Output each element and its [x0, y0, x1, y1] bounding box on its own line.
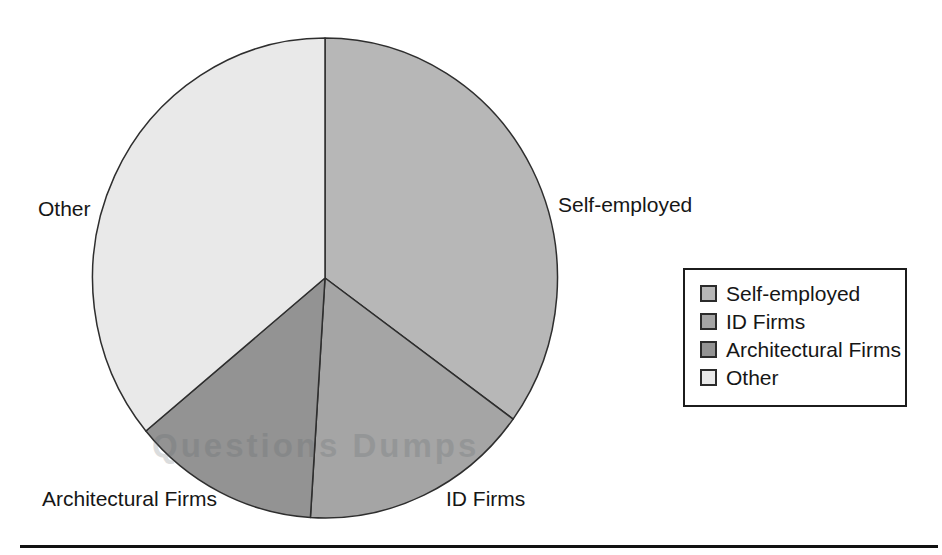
legend-swatch-self-employed [700, 285, 717, 302]
legend-item: Self-employed [700, 283, 897, 304]
legend-swatch-architectural-firms [700, 341, 717, 358]
slice-label-self-employed: Self-employed [558, 193, 692, 217]
slice-label-other: Other [38, 197, 91, 221]
legend-item: ID Firms [700, 311, 897, 332]
legend-label: Other [726, 367, 779, 388]
legend: Self-employed ID Firms Architectural Fir… [683, 268, 907, 407]
legend-item: Architectural Firms [700, 339, 897, 360]
slice-label-architectural-firms: Architectural Firms [42, 487, 217, 511]
pie-chart-figure: Questions Dumps Self-employed ID Firms A… [0, 0, 942, 555]
legend-label: Architectural Firms [726, 339, 901, 360]
slice-label-id-firms: ID Firms [446, 487, 525, 511]
legend-swatch-other [700, 369, 717, 386]
legend-item: Other [700, 367, 897, 388]
bottom-rule [20, 545, 938, 548]
legend-label: ID Firms [726, 311, 805, 332]
legend-label: Self-employed [726, 283, 860, 304]
legend-swatch-id-firms [700, 313, 717, 330]
